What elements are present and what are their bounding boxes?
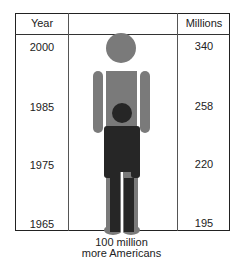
- population-figures: [0, 0, 243, 261]
- caption-line-2: more Americans: [0, 248, 243, 259]
